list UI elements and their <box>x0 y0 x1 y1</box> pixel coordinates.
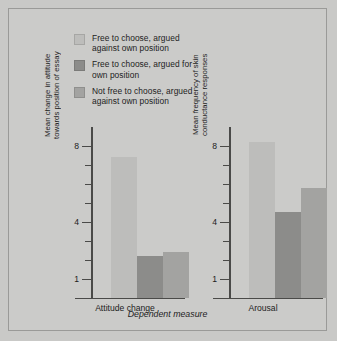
y-tick-3 <box>223 241 229 243</box>
y-tick-label-1: 1 <box>74 274 79 283</box>
y-tick-label-4: 4 <box>212 217 217 226</box>
y-tick-label-8: 8 <box>74 142 79 151</box>
y-tick-5 <box>223 203 229 205</box>
y-tick-label-8: 8 <box>212 142 217 151</box>
y-tick-3 <box>85 241 91 243</box>
legend-swatch-free-for <box>74 60 85 71</box>
y-tick-8: 8 <box>82 146 91 148</box>
legend-item-free-for: Free to choose, argued for own position <box>74 59 274 79</box>
bar-notfree-against <box>163 252 189 297</box>
chart-legend: Free to choose, argued against own posit… <box>74 33 274 112</box>
y-tick-label-1: 1 <box>212 274 217 283</box>
y-tick-2 <box>223 260 229 262</box>
y-axis-title-attitude-change: Mean change in attitude towards position… <box>39 9 65 181</box>
plot-area-attitude-change <box>93 127 179 298</box>
legend-item-notfree-against: Not free to choose, argued against own p… <box>74 86 274 106</box>
x-axis-line-left <box>75 298 185 300</box>
y-tick-2 <box>85 260 91 262</box>
panel-attitude-change: 148 Attitude change <box>71 127 179 299</box>
legend-label-free-against: Free to choose, argued against own posit… <box>92 33 180 53</box>
x-axis-line-right <box>213 298 323 300</box>
bar-free-for <box>137 256 163 298</box>
legend-label-notfree-against: Not free to choose, argued against own p… <box>92 86 192 106</box>
figure-frame: Free to choose, argued against own posit… <box>8 8 327 331</box>
y-tick-1: 1 <box>82 279 91 281</box>
y-tick-7 <box>223 165 229 167</box>
y-tick-7 <box>85 165 91 167</box>
legend-label-free-for: Free to choose, argued for own position <box>92 59 192 79</box>
y-tick-8: 8 <box>220 146 229 148</box>
y-tick-4: 4 <box>220 222 229 224</box>
y-tick-6 <box>85 184 91 186</box>
y-tick-4: 4 <box>82 222 91 224</box>
legend-item-free-against: Free to choose, argued against own posit… <box>74 33 274 53</box>
plot-area-arousal <box>231 127 317 298</box>
y-tick-6 <box>223 184 229 186</box>
x-axis-title: Dependent measure <box>9 309 326 319</box>
legend-swatch-notfree-against <box>74 87 85 98</box>
bar-free-against <box>111 157 137 297</box>
legend-swatch-free-against <box>74 34 85 45</box>
panel-arousal: 148 Arousal <box>209 127 317 299</box>
y-tick-5 <box>85 203 91 205</box>
y-tick-label-4: 4 <box>74 217 79 226</box>
bar-free-against <box>249 142 275 297</box>
bar-notfree-against <box>301 188 327 298</box>
bar-free-for <box>275 212 301 297</box>
y-tick-1: 1 <box>220 279 229 281</box>
